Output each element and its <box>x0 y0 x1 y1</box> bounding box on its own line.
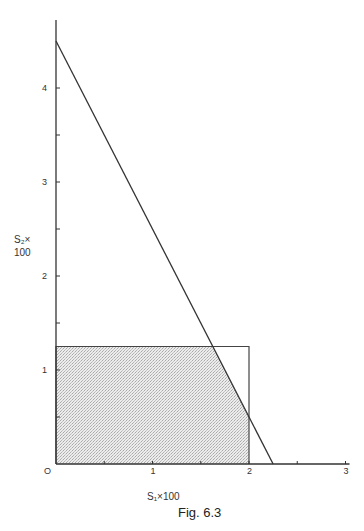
y-tick-label: 3 <box>42 177 47 187</box>
x-axis-label: S₁×100 <box>147 491 180 502</box>
x-tick-label: O <box>44 466 51 476</box>
x-tick-label: 2 <box>247 466 252 476</box>
x-tick-label: 1 <box>151 466 156 476</box>
y-axis-label-line2: 100 <box>14 247 31 258</box>
y-axis-label-line1: S₂× <box>14 234 31 245</box>
x-tick-label: 3 <box>344 466 349 476</box>
chart-canvas: O1231234 S₂× 100 S₁×100 Fig. 6.3 <box>0 0 364 531</box>
y-tick-label: 2 <box>42 271 47 281</box>
shaded-feasible-region <box>56 347 249 465</box>
figure-caption: Fig. 6.3 <box>178 505 221 520</box>
y-tick-label: 1 <box>42 365 47 375</box>
y-tick-label: 4 <box>42 83 47 93</box>
